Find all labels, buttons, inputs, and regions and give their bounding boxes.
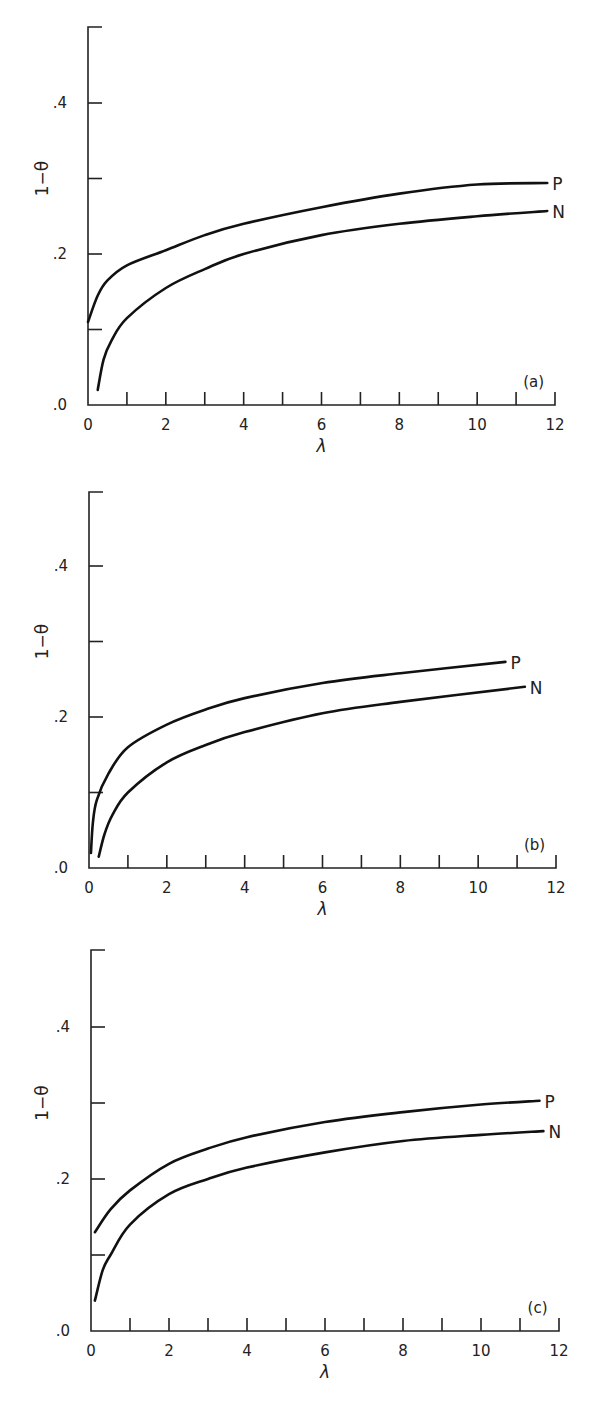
panel-label: (a) <box>523 373 544 391</box>
panel-label: (b) <box>524 836 545 854</box>
x-tick-label: 2 <box>161 416 171 434</box>
x-tick-label: 12 <box>549 1342 568 1360</box>
x-tick-label: 6 <box>317 416 327 434</box>
y-tick-label: .4 <box>54 557 68 575</box>
x-tick-label: 8 <box>395 416 405 434</box>
x-tick-label: 2 <box>162 879 172 897</box>
x-tick-label: 8 <box>398 1342 408 1360</box>
y-axis-title: 1−θ <box>32 624 52 659</box>
series-label-p: P <box>552 174 562 194</box>
y-tick-label: .2 <box>56 1170 70 1188</box>
x-tick-label: 8 <box>396 879 406 897</box>
x-tick-label: 10 <box>469 879 488 897</box>
x-tick-label: 10 <box>471 1342 490 1360</box>
curve-p <box>91 662 505 853</box>
curve-n <box>98 211 547 390</box>
curve-p <box>95 1101 540 1232</box>
x-tick-label: 0 <box>84 879 94 897</box>
x-tick-label: 4 <box>240 879 250 897</box>
x-tick-label: 4 <box>242 1342 252 1360</box>
x-tick-label: 0 <box>86 1342 96 1360</box>
y-tick-label: .0 <box>56 1322 70 1340</box>
y-tick-label: .2 <box>53 245 67 263</box>
x-tick-label: 0 <box>83 416 93 434</box>
x-axis-title: λ <box>315 436 326 456</box>
panel-a: .0.2.4024681012λ1−θ(a)PN <box>32 27 565 456</box>
x-tick-label: 6 <box>320 1342 330 1360</box>
x-tick-label: 12 <box>546 879 565 897</box>
chart-figure: .0.2.4024681012λ1−θ(a)PN.0.2.4024681012λ… <box>0 0 592 1401</box>
y-axis-title: 1−θ <box>32 161 52 196</box>
x-tick-label: 10 <box>468 416 487 434</box>
axes-frame <box>91 950 559 1331</box>
curve-p <box>88 183 547 322</box>
panel-label: (c) <box>528 1299 548 1317</box>
panel-c: .0.2.4024681012λ1−θ(c)PN <box>32 950 569 1382</box>
series-label-n: N <box>530 678 543 698</box>
x-axis-title: λ <box>316 899 327 919</box>
y-tick-label: .4 <box>53 94 67 112</box>
curve-n <box>95 1131 544 1300</box>
x-tick-label: 6 <box>318 879 328 897</box>
y-tick-label: .0 <box>54 859 68 877</box>
panel-b: .0.2.4024681012λ1−θ(b)PN <box>32 492 566 919</box>
y-axis-title: 1−θ <box>32 1085 52 1120</box>
series-label-n: N <box>552 202 565 222</box>
y-tick-label: .0 <box>53 396 67 414</box>
series-label-p: P <box>545 1092 555 1112</box>
x-tick-label: 12 <box>545 416 564 434</box>
x-tick-label: 4 <box>239 416 249 434</box>
series-label-n: N <box>548 1122 561 1142</box>
curve-n <box>99 687 525 857</box>
x-tick-label: 2 <box>164 1342 174 1360</box>
x-axis-title: λ <box>319 1362 330 1382</box>
series-label-p: P <box>510 653 520 673</box>
y-tick-label: .4 <box>56 1018 70 1036</box>
y-tick-label: .2 <box>54 708 68 726</box>
axes-frame <box>89 492 556 868</box>
